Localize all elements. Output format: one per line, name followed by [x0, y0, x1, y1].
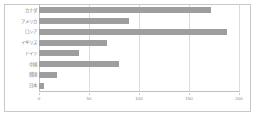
x-axis-tick — [239, 93, 240, 95]
x-axis-line — [39, 91, 240, 92]
bar-row[interactable] — [39, 60, 239, 69]
bar[interactable] — [39, 61, 119, 67]
x-axis: 050100150200 — [39, 93, 239, 105]
bar[interactable] — [39, 40, 107, 46]
bar[interactable] — [39, 18, 129, 24]
x-axis-tick — [139, 93, 140, 95]
bar-row[interactable] — [39, 17, 239, 26]
category-axis: カナダアメリカロシアイギリスドイツ中国韓国日本 — [5, 5, 37, 91]
plot-area — [39, 5, 239, 91]
category-label: 中国 — [29, 60, 37, 69]
bar-row[interactable] — [39, 27, 239, 36]
bar-row[interactable] — [39, 81, 239, 90]
category-label: 韓国 — [29, 70, 37, 79]
x-axis-tick — [39, 93, 40, 95]
x-axis-tick-label: 100 — [135, 96, 142, 102]
bar[interactable] — [39, 7, 211, 13]
x-axis-tick-label: 50 — [87, 96, 92, 102]
category-label: ドイツ — [25, 49, 37, 58]
bar-row[interactable] — [39, 49, 239, 58]
x-axis-tick-label: 150 — [185, 96, 192, 102]
gridline — [239, 5, 240, 91]
chart-frame: カナダアメリカロシアイギリスドイツ中国韓国日本 050100150200 — [4, 4, 251, 112]
x-axis-tick — [189, 93, 190, 95]
bar[interactable] — [39, 50, 79, 56]
bar[interactable] — [39, 83, 44, 89]
bar-row[interactable] — [39, 6, 239, 15]
x-axis-tick-label: 0 — [38, 96, 40, 102]
bar[interactable] — [39, 72, 57, 78]
bar[interactable] — [39, 29, 227, 35]
category-label: カナダ — [25, 6, 37, 15]
category-label: ロシア — [25, 27, 37, 36]
x-axis-tick-label: 200 — [235, 96, 242, 102]
category-label: 日本 — [29, 81, 37, 90]
x-axis-tick — [89, 93, 90, 95]
bar-row[interactable] — [39, 38, 239, 47]
category-label: アメリカ — [21, 17, 37, 26]
chart-plot-wrapper: カナダアメリカロシアイギリスドイツ中国韓国日本 050100150200 — [5, 5, 250, 111]
bar-row[interactable] — [39, 70, 239, 79]
category-label: イギリス — [21, 38, 37, 47]
